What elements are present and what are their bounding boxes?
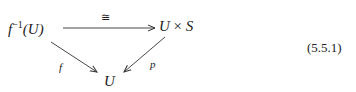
node-product: U × S: [159, 19, 193, 34]
label-isomorphism: ≅: [101, 12, 110, 23]
label-f: f: [59, 62, 62, 73]
preimage-exponent: −1: [12, 19, 23, 30]
product-left: U: [159, 18, 170, 34]
equation-number: (5.5.1): [307, 41, 342, 54]
arrow-left: [51, 42, 97, 72]
times-operator: ×: [170, 18, 186, 34]
node-preimage: f−1(U): [8, 20, 44, 37]
label-p: p: [150, 59, 156, 70]
product-right: S: [186, 18, 194, 34]
node-base: U: [104, 74, 115, 89]
arrow-right: [124, 37, 165, 72]
preimage-argument: (U): [23, 21, 44, 37]
diagram-arrows: [0, 0, 356, 92]
